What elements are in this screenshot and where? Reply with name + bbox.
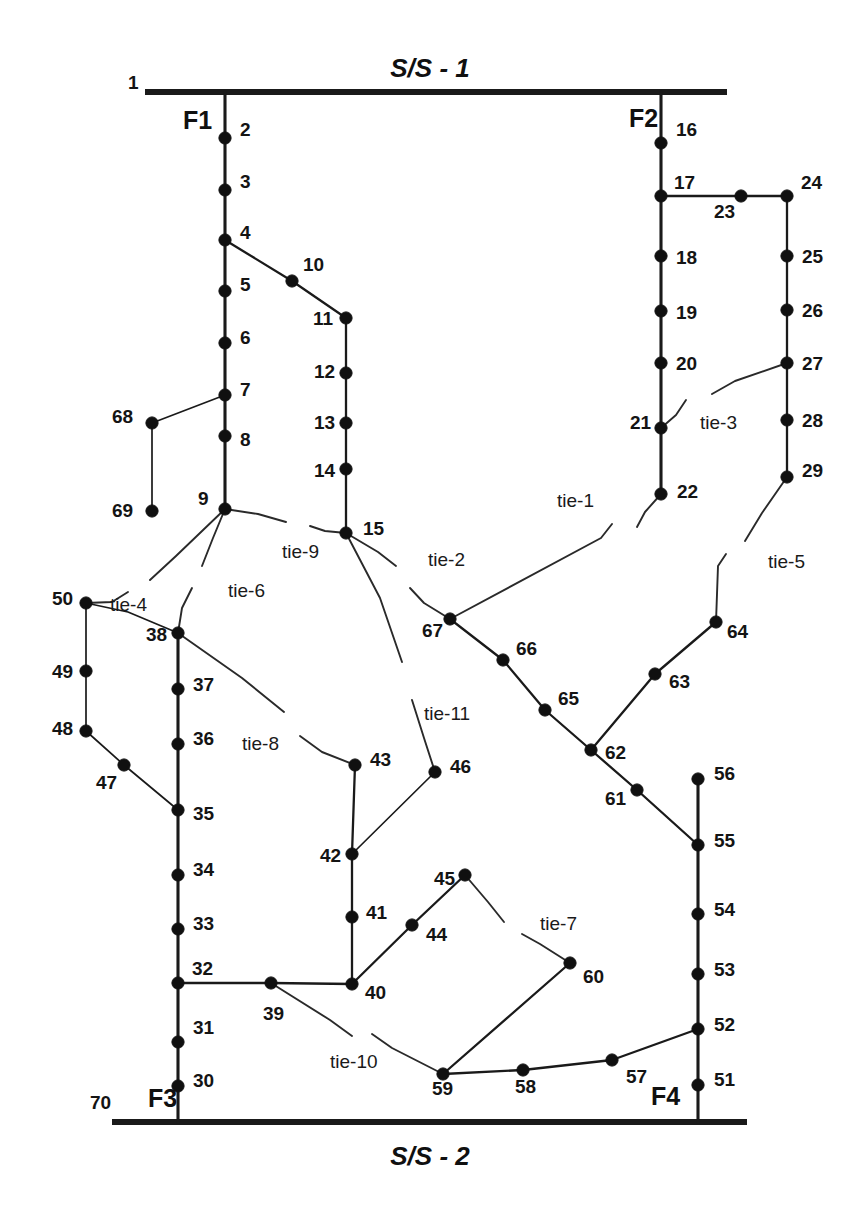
node-dot-15[interactable] (340, 527, 352, 539)
node-dot-14[interactable] (340, 463, 352, 475)
node-dot-47[interactable] (118, 759, 130, 771)
node-dot-20[interactable] (655, 357, 667, 369)
node-label-31: 31 (193, 1017, 215, 1038)
node-dot-17[interactable] (655, 190, 667, 202)
node-label-61: 61 (605, 788, 627, 809)
node-dot-33[interactable] (172, 923, 184, 935)
tie-segment-tie-1-b (450, 524, 612, 619)
node-dot-56[interactable] (692, 773, 704, 785)
node-dot-45[interactable] (459, 869, 471, 881)
node-dot-5[interactable] (219, 285, 231, 297)
node-label-56: 56 (714, 763, 735, 784)
node-dot-41[interactable] (346, 911, 358, 923)
node-dot-28[interactable] (781, 414, 793, 426)
node-dot-50[interactable] (80, 597, 92, 609)
node-dot-61[interactable] (631, 784, 643, 796)
node-dot-52[interactable] (692, 1023, 704, 1035)
nodes-layer (80, 132, 793, 1092)
node-dot-29[interactable] (781, 471, 793, 483)
node-label-1: 1 (128, 72, 139, 93)
node-dot-39[interactable] (265, 977, 277, 989)
node-dot-55[interactable] (692, 839, 704, 851)
substation-label-ss1: S/S - 1 (390, 53, 469, 83)
node-label-52: 52 (714, 1014, 735, 1035)
node-dot-23[interactable] (735, 190, 747, 202)
node-label-33: 33 (193, 913, 214, 934)
node-dot-49[interactable] (80, 665, 92, 677)
node-label-69: 69 (112, 500, 133, 521)
node-dot-31[interactable] (172, 1036, 184, 1048)
node-dot-16[interactable] (655, 137, 667, 149)
tie-line-tie-9 (225, 509, 346, 533)
tie-segment-tie-3-b (712, 363, 787, 394)
node-dot-32[interactable] (172, 977, 184, 989)
node-dot-26[interactable] (781, 304, 793, 316)
node-dot-12[interactable] (340, 367, 352, 379)
node-dot-53[interactable] (692, 968, 704, 980)
node-dot-35[interactable] (172, 804, 184, 816)
node-label-38: 38 (146, 624, 167, 645)
node-label-18: 18 (676, 247, 697, 268)
node-dot-42[interactable] (346, 848, 358, 860)
node-label-35: 35 (193, 803, 215, 824)
node-dot-10[interactable] (286, 275, 298, 287)
node-dot-18[interactable] (655, 250, 667, 262)
node-dot-65[interactable] (539, 704, 551, 716)
node-label-44: 44 (426, 924, 448, 945)
node-dot-25[interactable] (781, 250, 793, 262)
node-dot-63[interactable] (649, 668, 661, 680)
node-dot-60[interactable] (564, 957, 576, 969)
node-dot-40[interactable] (346, 978, 358, 990)
node-dot-38[interactable] (172, 627, 184, 639)
node-dot-34[interactable] (172, 869, 184, 881)
node-label-60: 60 (583, 966, 604, 987)
node-dot-24[interactable] (781, 190, 793, 202)
node-dot-69[interactable] (146, 505, 158, 517)
node-label-8: 8 (240, 429, 251, 450)
node-dot-64[interactable] (710, 616, 722, 628)
node-dot-58[interactable] (517, 1064, 529, 1076)
node-dot-37[interactable] (172, 683, 184, 695)
node-dot-57[interactable] (606, 1054, 618, 1066)
node-dot-68[interactable] (146, 417, 158, 429)
feeder-label-F2: F2 (629, 104, 658, 132)
node-dot-46[interactable] (429, 766, 441, 778)
node-dot-43[interactable] (349, 759, 361, 771)
node-dot-7[interactable] (219, 389, 231, 401)
node-label-57: 57 (626, 1066, 647, 1087)
node-dot-36[interactable] (172, 738, 184, 750)
tie-segment-tie-9-a (225, 509, 286, 522)
node-dot-19[interactable] (655, 305, 667, 317)
node-dot-54[interactable] (692, 908, 704, 920)
node-label-39: 39 (263, 1003, 284, 1024)
node-dot-6[interactable] (219, 337, 231, 349)
node-label-59: 59 (432, 1078, 453, 1099)
tie-line-tie-1 (450, 494, 661, 619)
node-dot-9[interactable] (219, 503, 231, 515)
node-dot-22[interactable] (655, 488, 667, 500)
tie-segment-tie-4-a (150, 509, 225, 580)
node-dot-62[interactable] (585, 744, 597, 756)
node-label-10: 10 (303, 254, 324, 275)
tie-label-tie-1: tie-1 (557, 490, 594, 511)
node-label-5: 5 (240, 274, 251, 295)
node-dot-51[interactable] (692, 1079, 704, 1091)
node-label-6: 6 (240, 327, 251, 348)
node-dot-8[interactable] (219, 430, 231, 442)
node-label-36: 36 (193, 728, 214, 749)
node-dot-3[interactable] (219, 184, 231, 196)
node-dot-13[interactable] (340, 417, 352, 429)
node-dot-11[interactable] (340, 312, 352, 324)
node-dot-48[interactable] (80, 725, 92, 737)
node-dot-66[interactable] (497, 654, 509, 666)
node-dot-4[interactable] (219, 234, 231, 246)
node-dot-27[interactable] (781, 357, 793, 369)
node-dot-44[interactable] (406, 919, 418, 931)
node-dot-2[interactable] (219, 132, 231, 144)
tie-line-tie-2 (346, 533, 450, 619)
node-dot-67[interactable] (444, 613, 456, 625)
node-label-46: 46 (450, 756, 471, 777)
tie-line-tie-5 (716, 477, 787, 622)
node-label-27: 27 (802, 353, 823, 374)
node-dot-21[interactable] (655, 422, 667, 434)
